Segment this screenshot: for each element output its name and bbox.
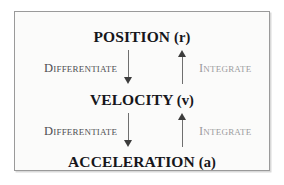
- edge-label-integrate-bottom: Integrate: [199, 124, 251, 139]
- arrow-integrate-velocity-to-position: [177, 50, 188, 84]
- edge-label-integrate-top: Integrate: [199, 61, 251, 76]
- arrow-shaft: [182, 118, 183, 147]
- arrow-head-up-icon: [178, 113, 186, 120]
- arrow-shaft: [182, 55, 183, 84]
- arrow-differentiate-velocity-to-acceleration: [123, 113, 134, 147]
- diagram-panel: POSITION (r) Differentiate Integrate VEL…: [14, 11, 270, 171]
- node-velocity-symbol: (v): [177, 92, 194, 108]
- node-position-symbol: (r): [174, 29, 190, 45]
- kinematics-diagram-screenshot: POSITION (r) Differentiate Integrate VEL…: [0, 0, 284, 185]
- arrow-head-down-icon: [124, 140, 132, 147]
- node-velocity-label: VELOCITY: [90, 91, 173, 108]
- arrow-differentiate-position-to-velocity: [123, 50, 134, 84]
- node-acceleration-symbol: (a): [199, 154, 216, 170]
- arrow-head-up-icon: [178, 50, 186, 57]
- node-position: POSITION (r): [15, 28, 269, 46]
- edge-label-differentiate-top: Differentiate: [44, 61, 117, 76]
- arrow-shaft: [128, 50, 129, 79]
- node-acceleration-label: ACCELERATION: [68, 153, 195, 170]
- arrow-integrate-acceleration-to-velocity: [177, 113, 188, 147]
- node-position-label: POSITION: [94, 28, 171, 45]
- node-acceleration: ACCELERATION (a): [15, 153, 269, 171]
- node-velocity: VELOCITY (v): [15, 91, 269, 109]
- edge-label-differentiate-bottom: Differentiate: [44, 124, 117, 139]
- arrow-shaft: [128, 113, 129, 142]
- arrow-head-down-icon: [124, 77, 132, 84]
